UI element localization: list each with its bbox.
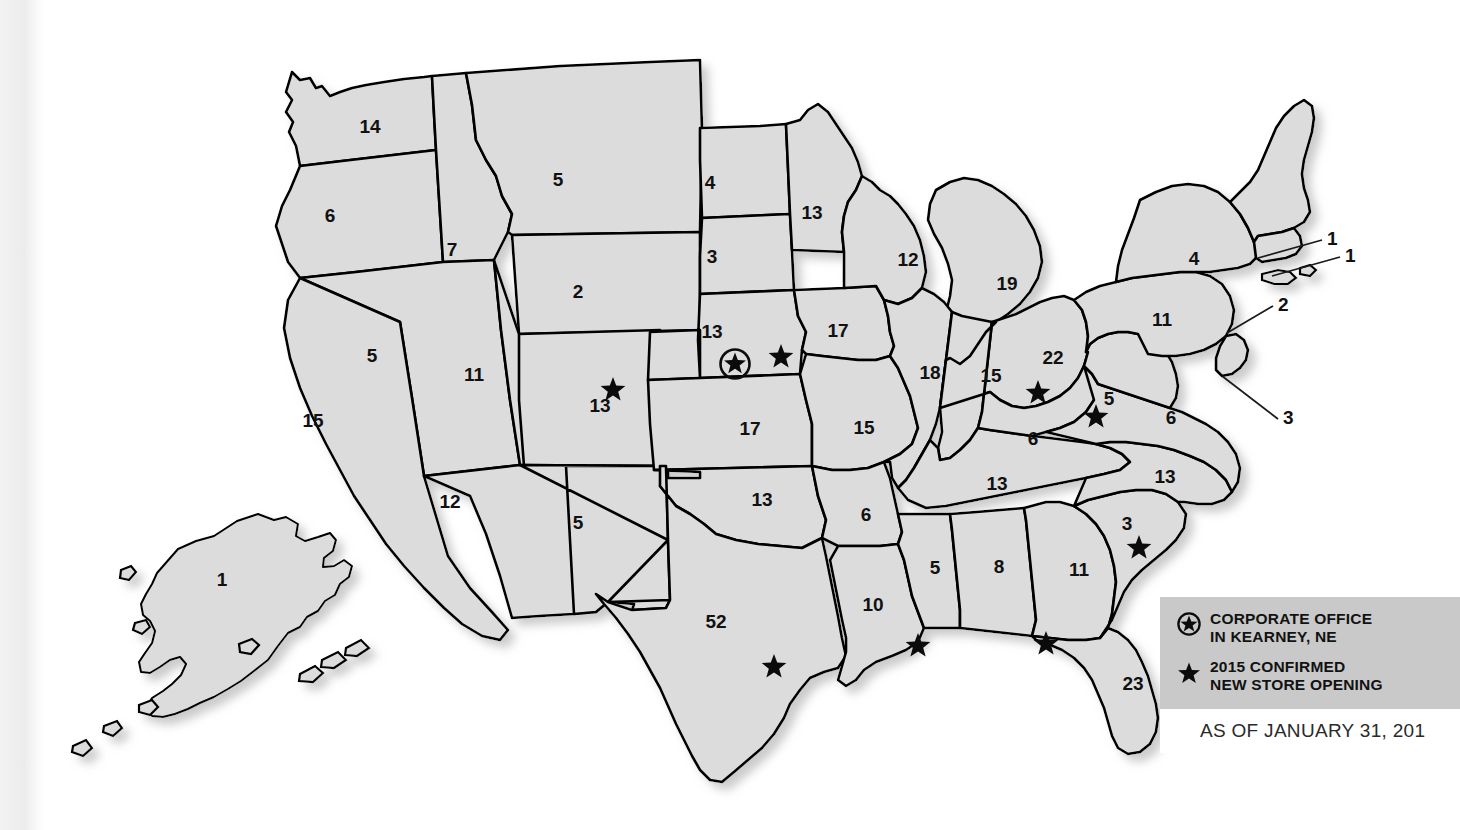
state-value-WI: 12	[897, 249, 918, 270]
legend-row-new-store: 2015 CONFIRMED NEW STORE OPENING	[1176, 658, 1460, 695]
alaska-panhandle-3	[345, 640, 369, 656]
as-of-date-text: AS OF JANUARY 31, 201	[1160, 720, 1425, 742]
state-value-SD: 3	[707, 246, 718, 267]
as-of-date-bar: AS OF JANUARY 31, 201	[1160, 709, 1460, 753]
state-value-NC: 13	[1154, 466, 1175, 487]
state-value-UT: 11	[464, 364, 485, 385]
state-WI	[842, 176, 926, 304]
state-AK	[139, 514, 352, 717]
state-value-ND: 4	[705, 172, 716, 193]
alaska-island-5	[103, 721, 122, 736]
state-KS	[648, 374, 812, 470]
state-value-IN: 15	[980, 365, 1002, 386]
massachusetts-callout: 1	[1327, 228, 1338, 249]
state-value-SC: 3	[1122, 513, 1133, 534]
state-value-IL: 18	[919, 362, 940, 383]
state-value-AK: 1	[217, 569, 228, 590]
legend-spacer	[1176, 647, 1460, 658]
state-value-AR: 6	[861, 504, 872, 525]
map-legend: CORPORATE OFFICE IN KEARNEY, NE 2015 CON…	[1160, 597, 1460, 709]
new-jersey-callout: 2	[1278, 294, 1289, 315]
state-OR	[276, 150, 443, 278]
state-value-LA: 10	[862, 594, 883, 615]
state-value-MT: 5	[553, 169, 564, 190]
state-NewEngland	[1230, 100, 1314, 242]
state-value-MO: 15	[853, 417, 875, 438]
state-value-FL: 23	[1122, 673, 1143, 694]
alaska-panhandle-1	[299, 666, 323, 682]
alaska-island-2	[133, 620, 150, 634]
state-value-OR: 6	[325, 205, 336, 226]
state-value-WV: 5	[1104, 388, 1115, 409]
state-value-IA: 17	[827, 320, 848, 341]
rhode-island-callout: 1	[1345, 245, 1356, 266]
state-value-PA: 11	[1152, 309, 1173, 330]
state-value-MS: 5	[930, 557, 941, 578]
star-icon	[1176, 659, 1201, 684]
state-value-NV: 5	[367, 345, 378, 366]
state-value-KS: 17	[739, 418, 760, 439]
state-value-CA: 15	[302, 410, 324, 431]
state-value-GA: 11	[1069, 559, 1090, 580]
legend-corporate-office-label: CORPORATE OFFICE IN KEARNEY, NE	[1210, 610, 1372, 647]
state-value-AZ: 12	[439, 491, 460, 512]
state-value-TN: 13	[986, 473, 1007, 494]
state-value-NY: 4	[1189, 248, 1200, 269]
state-AR	[812, 462, 902, 546]
state-value-MN: 13	[801, 202, 822, 223]
legend-new-store-label: 2015 CONFIRMED NEW STORE OPENING	[1210, 658, 1383, 695]
state-value-WA: 14	[359, 116, 381, 137]
alaska-panhandle-2	[321, 652, 346, 668]
state-value-OK: 13	[751, 489, 772, 510]
alaska-island-6	[72, 740, 92, 756]
alaska-island-1	[120, 566, 136, 580]
state-value-NM: 5	[573, 512, 584, 533]
state-value-OH: 22	[1042, 347, 1063, 368]
state-ND	[700, 124, 790, 218]
legend-row-corporate-office: CORPORATE OFFICE IN KEARNEY, NE	[1176, 610, 1460, 647]
state-value-WY: 2	[573, 281, 584, 302]
state-WY	[512, 232, 700, 334]
circled-star-icon	[1176, 611, 1201, 636]
state-value-KY: 6	[1028, 428, 1039, 449]
state-value-ID: 7	[447, 239, 458, 260]
state-value-VA: 6	[1166, 407, 1177, 428]
maryland-delaware-callout-leader-line	[1222, 376, 1278, 419]
state-value-MI: 19	[996, 273, 1017, 294]
long-island	[1262, 270, 1296, 284]
state-value-NE: 13	[701, 321, 722, 342]
state-value-TX: 52	[705, 611, 726, 632]
state-value-AL: 8	[994, 556, 1005, 577]
maryland-delaware-callout: 3	[1283, 407, 1294, 428]
